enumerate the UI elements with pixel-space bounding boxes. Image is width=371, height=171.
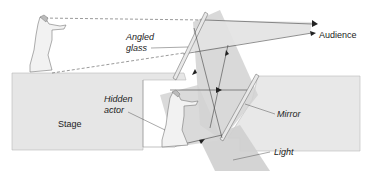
stage-block bbox=[12, 73, 186, 150]
arrow-up-1 bbox=[192, 69, 197, 75]
label-angled-glass-2: glass bbox=[126, 43, 148, 53]
label-audience: Audience bbox=[319, 30, 357, 40]
label-angled-glass-1: Angled bbox=[125, 32, 155, 42]
peppers-ghost-diagram: Angled glass Audience Hidden actor Stage… bbox=[0, 0, 371, 171]
label-hidden-actor-2: actor bbox=[104, 105, 125, 115]
label-stage: Stage bbox=[58, 119, 82, 129]
label-light: Light bbox=[274, 147, 294, 157]
arrow-audience-bottom bbox=[310, 31, 316, 36]
leader-angled-glass bbox=[151, 47, 188, 48]
label-mirror: Mirror bbox=[277, 109, 301, 119]
label-hidden-actor-1: Hidden bbox=[104, 94, 133, 104]
sight-line-top bbox=[40, 18, 205, 20]
ghost-figure bbox=[30, 15, 66, 72]
diagram-canvas: Angled glass Audience Hidden actor Stage… bbox=[0, 0, 371, 171]
arrow-audience-top bbox=[312, 20, 318, 27]
sight-line-bottom bbox=[52, 52, 190, 73]
